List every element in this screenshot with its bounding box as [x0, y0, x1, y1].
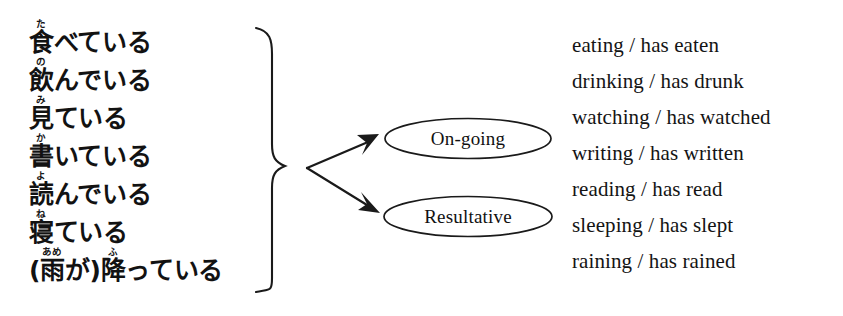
kanji-base: 書: [29, 142, 54, 171]
furigana: ね: [29, 208, 54, 219]
furigana: か: [29, 132, 54, 143]
english-gloss-row: watching / has watched: [572, 99, 843, 135]
english-glosses-column: eating / has eaten drinking / has drunk …: [572, 27, 843, 279]
kanji-base: 見: [29, 104, 54, 133]
english-gloss-row: writing / has written: [572, 135, 843, 171]
node-label: Resultative: [424, 206, 512, 228]
kanji-base: 降: [101, 256, 126, 285]
node-on-going[interactable]: On-going: [383, 117, 553, 160]
japanese-form-row: 読よんでいる: [29, 170, 259, 208]
kanji-with-furigana: 降ふ: [101, 256, 126, 285]
japanese-form-row: 飲のんでいる: [29, 56, 259, 94]
kanji-base: 寝: [29, 218, 54, 247]
kanji-with-furigana: 雨あめ: [40, 256, 65, 285]
english-gloss-row: reading / has read: [572, 171, 843, 207]
furigana: よ: [29, 170, 54, 181]
kana-tail: いている: [54, 142, 152, 171]
japanese-form-row: 書かいている: [29, 132, 259, 170]
english-gloss-row: raining / has rained: [572, 243, 843, 279]
kanji-with-furigana: 食た: [29, 28, 54, 57]
japanese-forms-column: 食たべている 飲のんでいる 見みている 書かいている 読よんでいる 寝ねている …: [29, 18, 259, 284]
english-gloss-row: sleeping / has slept: [572, 207, 843, 243]
japanese-form-row: 寝ねている: [29, 208, 259, 246]
kanji-base: 読: [29, 180, 54, 209]
furigana: た: [29, 18, 54, 29]
kanji-with-furigana: 読よ: [29, 180, 54, 209]
japanese-form-row: 見みている: [29, 94, 259, 132]
furigana: み: [29, 94, 54, 105]
furigana: の: [29, 56, 54, 67]
kana-tail: んでいる: [54, 66, 152, 95]
furigana: あめ: [40, 246, 65, 257]
node-resultative[interactable]: Resultative: [382, 195, 554, 238]
japanese-form-row: 食たべている: [29, 18, 259, 56]
kanji-base: 食: [29, 28, 54, 57]
kana-tail: ている: [54, 218, 128, 247]
furigana: ふ: [101, 246, 126, 257]
kanji-with-furigana: 見み: [29, 104, 54, 133]
paren-open: (: [29, 256, 40, 285]
kanji-base: 雨: [40, 256, 65, 285]
kanji-with-furigana: 飲の: [29, 66, 54, 95]
kana-tail: っている: [125, 256, 223, 285]
kana-tail: べている: [54, 28, 152, 57]
english-gloss-row: eating / has eaten: [572, 27, 843, 63]
kanji-with-furigana: 寝ね: [29, 218, 54, 247]
japanese-form-row: (雨あめが)降ふっている: [29, 246, 259, 284]
kana-tail: ている: [54, 104, 128, 133]
node-label: On-going: [431, 128, 505, 150]
kana-tail: んでいる: [54, 180, 152, 209]
figure-canvas: 食たべている 飲のんでいる 見みている 書かいている 読よんでいる 寝ねている …: [0, 0, 843, 316]
kanji-with-furigana: 書か: [29, 142, 54, 171]
kanji-base: 飲: [29, 66, 54, 95]
particle-and-paren-close: が): [65, 256, 101, 285]
english-gloss-row: drinking / has drunk: [572, 63, 843, 99]
